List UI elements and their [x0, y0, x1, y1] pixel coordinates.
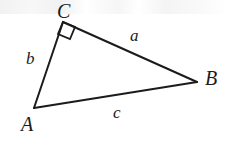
side-label-b: b — [26, 50, 35, 67]
vertex-label-c: C — [57, 1, 70, 21]
vertex-label-b: B — [205, 68, 217, 88]
geometry-figure: C B A a b c — [0, 0, 227, 145]
side-label-c: c — [113, 104, 121, 121]
triangle-drawing — [0, 0, 227, 145]
side-label-a: a — [130, 27, 139, 44]
vertex-label-a: A — [21, 114, 33, 134]
